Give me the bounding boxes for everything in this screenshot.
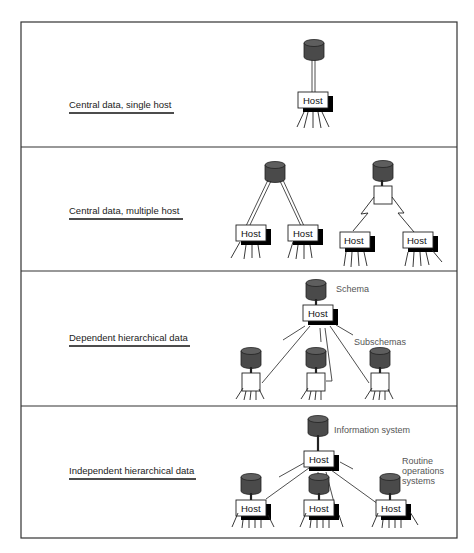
host-box: Host [236,225,271,245]
svg-text:Host: Host [241,228,261,239]
svg-text:Host: Host [309,454,329,465]
panel-label: Independent hierarchical data [69,465,195,476]
svg-text:Host: Host [407,235,427,246]
host-box: Host [303,305,338,325]
database-icon [308,416,328,437]
host-box: Host [298,92,333,112]
information-system-annotation: Information system [334,425,410,435]
host-box: Host [288,225,323,245]
schema-annotation: Schema [336,284,369,294]
database-icon [241,348,261,369]
host-box: Host [403,232,438,252]
database-icon [304,40,324,61]
host-box: Host [236,500,271,520]
database-icon [373,161,393,182]
subschemas-annotation: Subschemas [354,337,407,347]
database-icon [306,280,326,301]
subschema-box [307,373,325,391]
panel-label: Dependent hierarchical data [69,332,189,343]
database-icon [241,474,261,495]
database-icon [309,474,329,495]
svg-text:Host: Host [308,308,328,319]
svg-text:Host: Host [293,228,313,239]
svg-text:Host: Host [381,503,401,514]
database-icon [370,348,390,369]
routine-annotation-line3: systems [402,476,436,486]
front-end-box [374,186,392,204]
database-icon [265,162,285,183]
panel-label: Central data, single host [69,99,172,110]
host-box: Host [376,500,411,520]
svg-text:Host: Host [344,235,364,246]
panel-central-single-host: Central data, single host Host [69,40,333,129]
host-box: Host [340,232,375,252]
routine-annotation-line1: Routine [402,456,433,466]
diagram-figure: Central data, single host Host Central d… [0,0,474,553]
subschema-box [242,373,260,391]
routine-annotation-line2: operations [402,466,445,476]
subschema-box [371,373,389,391]
panel-central-multiple-host: Central data, multiple host Host Host [69,161,442,268]
panel-dependent-hierarchical: Dependent hierarchical data Schema Host … [69,280,407,401]
database-icon [380,474,400,495]
panel-independent-hierarchical: Independent hierarchical data Informatio… [69,416,445,529]
svg-text:Host: Host [309,503,329,514]
host-box: Host [304,500,339,520]
svg-text:Host: Host [303,95,323,106]
host-box: Host [304,451,339,471]
database-icon [306,348,326,369]
svg-text:Host: Host [241,503,261,514]
panel-label: Central data, multiple host [69,205,180,216]
